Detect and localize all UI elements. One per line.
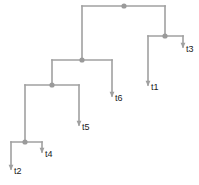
tip-label-t6: t6 — [115, 93, 123, 103]
node-dot-n2 — [162, 33, 167, 38]
node-dot-n4 — [49, 82, 54, 87]
tip-label-t5: t5 — [82, 122, 90, 132]
node-dot-n3 — [79, 57, 84, 62]
tip-label-t4: t4 — [45, 149, 53, 159]
tip-label-t1: t1 — [151, 82, 159, 92]
figure-background — [0, 0, 199, 185]
tree-canvas: t1t3t6t5t4t2 — [0, 0, 199, 185]
tip-label-t3: t3 — [186, 44, 194, 54]
node-dot-n1 — [121, 3, 126, 8]
phylogenetic-tree-figure: t1t3t6t5t4t2 — [0, 0, 199, 185]
tip-label-t2: t2 — [14, 166, 22, 176]
node-dot-n5 — [22, 139, 27, 144]
